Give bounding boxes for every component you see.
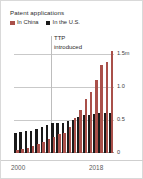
page-title: Patent applications bbox=[10, 9, 64, 16]
bar-china bbox=[79, 110, 82, 153]
y-tick-1-0: 1.0 bbox=[117, 83, 125, 89]
legend-label-us: In the U.S. bbox=[53, 20, 80, 26]
y-tick-0: 0 bbox=[117, 149, 120, 155]
ttp-annotation: TTP introduced bbox=[54, 34, 82, 51]
bar-china bbox=[106, 62, 109, 153]
bar-china bbox=[90, 92, 93, 153]
legend-label-china: In China bbox=[17, 20, 39, 26]
bar-china bbox=[74, 118, 77, 153]
bar-china bbox=[48, 139, 51, 153]
bar-china bbox=[53, 137, 56, 154]
bar-china bbox=[111, 51, 114, 153]
bar-china bbox=[85, 99, 88, 153]
bar-china bbox=[63, 133, 66, 153]
bar-series-container bbox=[14, 54, 114, 153]
bar-china bbox=[37, 144, 40, 153]
legend-swatch-us bbox=[46, 21, 51, 26]
legend-item-china: In China bbox=[10, 20, 39, 26]
y-tick-0-5: 0.5 bbox=[117, 116, 125, 122]
bar-china bbox=[95, 80, 98, 153]
x-tick-2018: 2018 bbox=[89, 164, 103, 171]
bar-china bbox=[69, 127, 72, 153]
ttp-annotation-line2: introduced bbox=[54, 43, 82, 52]
ttp-annotation-line1: TTP bbox=[54, 34, 82, 43]
y-tick-1-5m: 1.5m bbox=[117, 50, 129, 56]
bar-china bbox=[16, 150, 19, 153]
plot-area bbox=[14, 54, 114, 153]
legend: In China In the U.S. bbox=[10, 20, 80, 26]
bar-china bbox=[42, 142, 45, 153]
bar-china bbox=[21, 149, 24, 153]
legend-item-us: In the U.S. bbox=[46, 20, 80, 26]
chart-card: Patent applications In China In the U.S.… bbox=[0, 0, 143, 179]
bar-china bbox=[100, 65, 103, 153]
bar-china bbox=[32, 146, 35, 153]
bar-china bbox=[58, 134, 61, 153]
legend-swatch-china bbox=[10, 21, 15, 26]
bar-china bbox=[27, 148, 30, 153]
x-axis-divider bbox=[1, 160, 143, 161]
x-tick-2000: 2000 bbox=[11, 164, 25, 171]
